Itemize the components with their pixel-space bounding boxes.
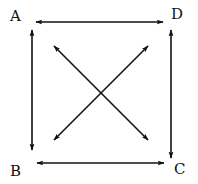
node-label-b: B bbox=[10, 164, 21, 179]
edges-layer bbox=[0, 0, 198, 184]
node-label-d: D bbox=[171, 7, 183, 22]
diagram-canvas: A D B C bbox=[0, 0, 198, 184]
node-label-c: C bbox=[174, 162, 185, 177]
node-label-a: A bbox=[10, 9, 21, 24]
